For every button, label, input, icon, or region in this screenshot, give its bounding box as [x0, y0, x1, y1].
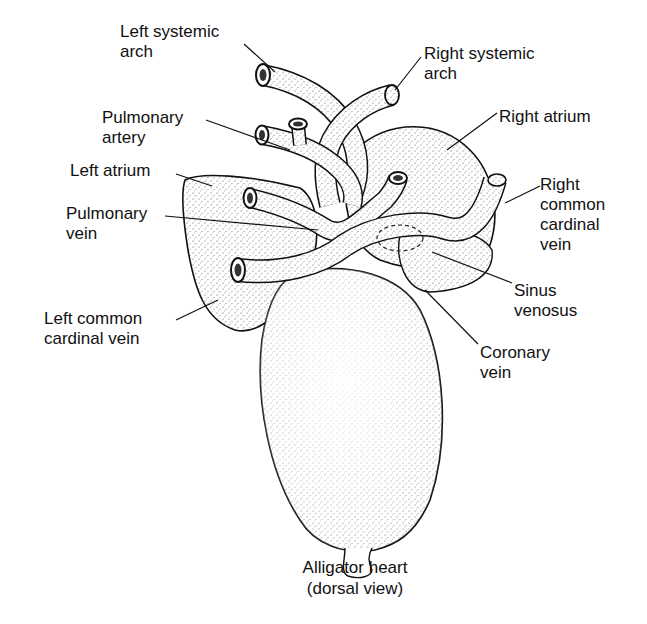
label-coronary-vein: Coronary vein [480, 343, 550, 383]
label-line: venosus [514, 301, 577, 321]
label-right-atrium: Right atrium [499, 107, 591, 127]
label-line: Coronary [480, 343, 550, 363]
label-line: Left common [44, 309, 142, 329]
label-left-common-cardinal-vein: Left common cardinal vein [44, 309, 142, 349]
label-line: Pulmonary [102, 108, 183, 128]
label-line: Sinus [514, 281, 577, 301]
label-line: common [540, 195, 605, 215]
label-line: vein [540, 235, 605, 255]
label-line: Left systemic [120, 22, 219, 42]
label-line: arch [424, 64, 535, 84]
label-line: Pulmonary [66, 204, 147, 224]
label-line: cardinal vein [44, 329, 142, 349]
label-line: vein [66, 224, 147, 244]
label-right-systemic-arch: Right systemic arch [424, 44, 535, 84]
label-line: artery [102, 128, 183, 148]
label-line: Left atrium [70, 161, 150, 181]
caption-title: Alligator heart [255, 557, 455, 578]
label-line: Right systemic [424, 44, 535, 64]
label-line: vein [480, 363, 550, 383]
label-sinus-venosus: Sinus venosus [514, 281, 577, 321]
label-line: Right [540, 175, 605, 195]
caption-subtitle: (dorsal view) [255, 578, 455, 599]
label-left-systemic-arch: Left systemic arch [120, 22, 219, 62]
figure-caption: Alligator heart (dorsal view) [255, 557, 455, 599]
label-right-common-cardinal-vein: Right common cardinal vein [540, 175, 605, 255]
label-line: arch [120, 42, 219, 62]
label-line: cardinal [540, 215, 605, 235]
label-pulmonary-artery: Pulmonary artery [102, 108, 183, 148]
label-left-atrium: Left atrium [70, 161, 150, 181]
label-pulmonary-vein: Pulmonary vein [66, 204, 147, 244]
label-line: Right atrium [499, 107, 591, 127]
